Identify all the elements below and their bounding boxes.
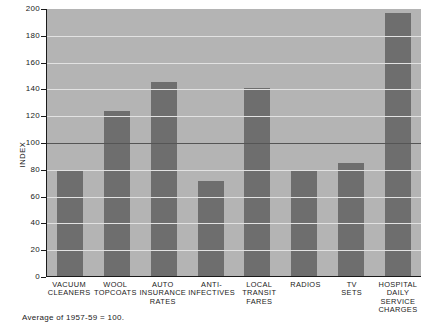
y-axis-tick-mark bbox=[41, 116, 46, 117]
y-axis-tick-mark bbox=[41, 277, 46, 278]
gridline bbox=[47, 63, 421, 64]
gridline bbox=[47, 89, 421, 90]
category-label-line: CHARGES bbox=[376, 306, 420, 314]
category-label-line: TOPCOATS bbox=[93, 289, 137, 297]
y-axis-tick-label: 160 bbox=[12, 59, 40, 67]
gridline bbox=[47, 36, 421, 37]
y-axis-tick-mark bbox=[41, 9, 46, 10]
category-label: RADIOS bbox=[282, 281, 328, 315]
y-axis-tick-label: 40 bbox=[12, 219, 40, 227]
y-axis-tick-label: 20 bbox=[12, 246, 40, 254]
category-axis-labels: VACUUMCLEANERSWOOLTOPCOATSAUTOINSURANCER… bbox=[46, 281, 421, 315]
y-axis-tick-mark bbox=[41, 223, 46, 224]
chart-footnote: Average of 1957-59 = 100. bbox=[22, 313, 124, 322]
gridline bbox=[47, 250, 421, 251]
bar-hospital-daily-service-charges bbox=[385, 13, 411, 276]
plot-area bbox=[46, 9, 421, 277]
category-label: VACUUMCLEANERS bbox=[46, 281, 92, 315]
bar-anti-infectives bbox=[198, 181, 224, 276]
category-label-line: SETS bbox=[330, 289, 374, 297]
y-axis-tick-label: 140 bbox=[12, 85, 40, 93]
y-axis-tick-mark bbox=[41, 89, 46, 90]
y-axis-tick-labels: 200180160140120100806040200 bbox=[12, 0, 40, 328]
category-label: LOCALTRANSITFARES bbox=[236, 281, 282, 315]
gridline bbox=[47, 223, 421, 224]
y-axis-tick-mark bbox=[41, 197, 46, 198]
y-axis-tick-label: 0 bbox=[12, 273, 40, 281]
y-axis-tick-mark bbox=[41, 170, 46, 171]
y-axis-tick-label: 80 bbox=[12, 166, 40, 174]
gridline bbox=[47, 197, 421, 198]
category-label-line: CLEANERS bbox=[47, 289, 91, 297]
y-axis-tick-mark bbox=[41, 250, 46, 251]
y-axis-tick-mark bbox=[41, 36, 46, 37]
y-axis-tick-label: 60 bbox=[12, 193, 40, 201]
bar-auto-insurance-rates bbox=[151, 82, 177, 276]
gridline bbox=[47, 116, 421, 117]
category-label: ANTI-INFECTIVES bbox=[187, 281, 236, 315]
category-label: TVSETS bbox=[329, 281, 375, 315]
bar-tv-sets bbox=[338, 163, 364, 276]
category-label-line: INFECTIVES bbox=[188, 289, 235, 297]
reference-line-100 bbox=[47, 143, 421, 144]
y-axis-tick-label: 100 bbox=[12, 139, 40, 147]
bar-chart: INDEX 200180160140120100806040200 VACUUM… bbox=[0, 0, 429, 328]
category-label-line: RATES bbox=[139, 298, 186, 306]
y-axis-tick-label: 200 bbox=[12, 5, 40, 13]
category-label-line: RADIOS bbox=[283, 281, 327, 289]
category-label: AUTOINSURANCERATES bbox=[138, 281, 187, 315]
category-label: WOOLTOPCOATS bbox=[92, 281, 138, 315]
y-axis-tick-mark bbox=[41, 143, 46, 144]
y-axis-tick-mark bbox=[41, 63, 46, 64]
category-label: HOSPITALDAILYSERVICECHARGES bbox=[375, 281, 421, 315]
category-label-line: FARES bbox=[237, 298, 281, 306]
gridline bbox=[47, 170, 421, 171]
bar-wool-topcoats bbox=[104, 111, 130, 276]
y-axis-tick-label: 180 bbox=[12, 32, 40, 40]
y-axis-tick-label: 120 bbox=[12, 112, 40, 120]
